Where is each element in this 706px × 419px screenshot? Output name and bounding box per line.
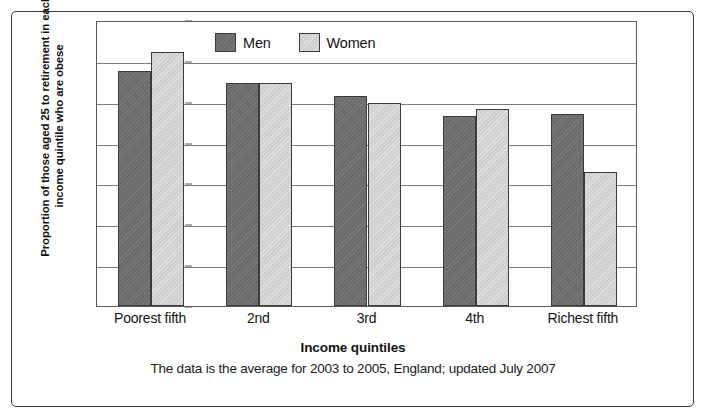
x-axis-tick-label: 2nd — [247, 310, 270, 326]
chart-figure: Proportion of those aged 25 to retiremen… — [0, 0, 706, 419]
legend-label-women: Women — [327, 35, 376, 51]
y-axis-tick-mark — [185, 102, 192, 103]
x-axis-tick-labels: Poorest fifth2nd3rd4thRichest fifth — [96, 310, 637, 332]
y-axis-tick-mark — [185, 143, 192, 144]
bar-women-3[interactable] — [476, 109, 509, 306]
legend-swatch-women-icon — [299, 33, 320, 52]
y-axis-tick-mark — [185, 21, 192, 22]
bar-men-0[interactable] — [118, 71, 151, 306]
x-axis-tick-label: 3rd — [357, 310, 377, 326]
y-axis-tick-mark — [185, 61, 192, 62]
plot-wrapper: Men Women 0%5%10%15%20%25%30%35% — [96, 21, 637, 307]
y-axis-title: Proportion of those aged 25 to retiremen… — [29, 0, 75, 271]
x-axis-tick-label: Poorest fifth — [114, 310, 186, 326]
bar-men-4[interactable] — [551, 114, 584, 306]
bar-women-0[interactable] — [151, 52, 184, 306]
y-axis-tick-mark — [185, 225, 192, 226]
plot-area: Men Women — [96, 21, 637, 307]
legend-swatch-men-icon — [215, 33, 236, 52]
y-axis-tick-mark — [185, 184, 192, 185]
x-axis-tick-label: 4th — [465, 310, 484, 326]
bar-women-4[interactable] — [584, 172, 617, 306]
legend-item-men[interactable]: Men — [215, 33, 271, 52]
x-axis-tick-label: Richest fifth — [548, 310, 619, 326]
bar-men-1[interactable] — [226, 83, 259, 306]
legend-item-women[interactable]: Women — [299, 33, 376, 52]
bars-layer — [97, 22, 636, 306]
bar-men-2[interactable] — [334, 96, 367, 306]
chart-caption: The data is the average for 2003 to 2005… — [0, 361, 706, 376]
chart-legend: Men Women — [215, 33, 375, 52]
bar-men-3[interactable] — [443, 116, 476, 306]
x-axis-title: Income quintiles — [0, 340, 706, 355]
bar-women-2[interactable] — [368, 103, 401, 306]
y-axis-tick-mark — [185, 266, 192, 267]
y-axis-tick-mark — [185, 307, 192, 308]
legend-label-men: Men — [243, 35, 271, 51]
bar-women-1[interactable] — [259, 83, 292, 306]
